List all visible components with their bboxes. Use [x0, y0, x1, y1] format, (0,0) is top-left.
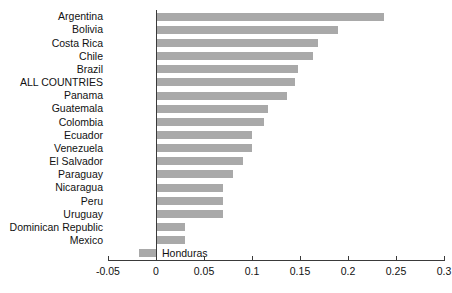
bar: [156, 157, 243, 165]
bar-row: [108, 115, 444, 128]
bar-row: [108, 194, 444, 207]
bar-row: [108, 155, 444, 168]
bar: [156, 105, 268, 113]
bar: [156, 52, 313, 60]
category-label-inside: Honduras: [162, 248, 208, 259]
bar: [156, 184, 223, 192]
category-label: Costa Rica: [0, 36, 108, 49]
x-axis-tick: [444, 256, 445, 261]
x-axis: [108, 260, 444, 261]
bar: [156, 78, 295, 86]
x-axis-tick-label: 0.25: [386, 266, 406, 277]
category-label: Guatemala: [0, 102, 108, 115]
x-axis-tick: [300, 256, 301, 261]
bar: [156, 144, 252, 152]
x-axis-tick-label: 0: [153, 266, 159, 277]
bar-row: [108, 10, 444, 23]
category-label: Peru: [0, 194, 108, 207]
bar: [156, 170, 233, 178]
category-label: Argentina: [0, 10, 108, 23]
x-axis-tick-label: 0.15: [290, 266, 310, 277]
bar-row: [108, 234, 444, 247]
bar-row: [108, 49, 444, 62]
category-label: Nicaragua: [0, 181, 108, 194]
x-axis-tick: [108, 256, 109, 261]
bar: [156, 131, 252, 139]
category-label: El Salvador: [0, 155, 108, 168]
zero-axis-line: [156, 10, 157, 260]
x-axis-tick-label: 0.1: [245, 266, 260, 277]
bar-row: [108, 221, 444, 234]
x-axis-tick: [396, 256, 397, 261]
bar: [156, 236, 185, 244]
category-label: ALL COUNTRIES: [0, 76, 108, 89]
bar: [156, 13, 384, 21]
bar: [156, 92, 287, 100]
bar-row: [108, 128, 444, 141]
x-axis-tick-label: 0.05: [194, 266, 214, 277]
x-axis-tick-label: 0.3: [437, 266, 452, 277]
bar: [156, 118, 264, 126]
category-label: Uruguay: [0, 207, 108, 220]
x-axis-tick: [156, 256, 157, 261]
bar: [156, 26, 338, 34]
bar-row: [108, 142, 444, 155]
bar-chart: ArgentinaBoliviaCosta RicaChileBrazilALL…: [0, 0, 452, 293]
bar-row: [108, 102, 444, 115]
category-label: Brazil: [0, 63, 108, 76]
bar: [156, 197, 223, 205]
x-axis-tick: [204, 256, 205, 261]
bar-row: Honduras: [108, 247, 444, 260]
category-label: Colombia: [0, 115, 108, 128]
x-axis-tick-label: 0.2: [341, 266, 356, 277]
category-label: Venezuela: [0, 142, 108, 155]
category-label: [0, 247, 108, 260]
bar: [156, 65, 298, 73]
category-label: Chile: [0, 49, 108, 62]
bar-row: [108, 89, 444, 102]
bar: [156, 39, 318, 47]
category-label: Mexico: [0, 234, 108, 247]
bar-row: [108, 181, 444, 194]
bar-row: [108, 76, 444, 89]
x-axis-tick-label: -0.05: [96, 266, 120, 277]
bar-row: [108, 63, 444, 76]
bar: [139, 249, 156, 257]
bar-row: [108, 36, 444, 49]
x-axis-tick: [348, 256, 349, 261]
bar: [156, 223, 185, 231]
category-label: Paraguay: [0, 168, 108, 181]
bar-rows: Honduras: [108, 10, 444, 260]
category-label: Dominican Republic: [0, 221, 108, 234]
bar: [156, 210, 223, 218]
bar-row: [108, 168, 444, 181]
category-label: Ecuador: [0, 128, 108, 141]
bar-row: [108, 207, 444, 220]
plot-area: Honduras: [108, 10, 444, 260]
category-label: Panama: [0, 89, 108, 102]
category-axis-labels: ArgentinaBoliviaCosta RicaChileBrazilALL…: [0, 10, 108, 260]
x-axis-tick: [252, 256, 253, 261]
bar-row: [108, 23, 444, 36]
category-label: Bolivia: [0, 23, 108, 36]
